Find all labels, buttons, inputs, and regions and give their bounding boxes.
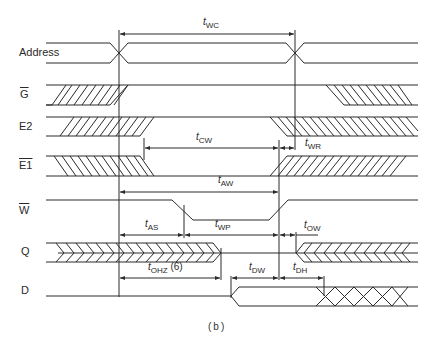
waveform-q [46, 232, 418, 280]
label-tdw: tDW [249, 261, 265, 275]
label-tow: tOW [304, 219, 321, 233]
waveform-address [46, 43, 418, 63]
waveform-w [46, 200, 418, 238]
waveform-g [46, 85, 418, 105]
waveform-e1 [46, 138, 418, 176]
label-tohz: tOHZ (6) [148, 261, 183, 275]
label-tcw: tCW [196, 131, 212, 145]
label-taw: tAW [218, 174, 233, 188]
label-tdh: tDH [293, 261, 307, 275]
waveform-e2 [46, 117, 418, 136]
label-twp: tWP [215, 218, 231, 232]
label-twc: tWC [203, 16, 219, 30]
label-twr: tWR [305, 137, 321, 151]
waveform-d [46, 276, 418, 306]
label-tas: tAS [145, 218, 158, 232]
figure-caption: (b) [208, 321, 226, 332]
